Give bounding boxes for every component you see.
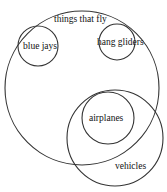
vehicles-circle	[67, 90, 163, 186]
venn-diagram: things that fly blue jays hang gliders v…	[0, 0, 167, 192]
hang-gliders-label: hang gliders	[97, 37, 144, 47]
things-that-fly-circle	[5, 11, 159, 165]
airplanes-label: airplanes	[89, 113, 124, 123]
things-that-fly-label: things that fly	[54, 14, 107, 24]
vehicles-label: vehicles	[115, 161, 146, 171]
blue-jays-label: blue jays	[23, 41, 57, 51]
